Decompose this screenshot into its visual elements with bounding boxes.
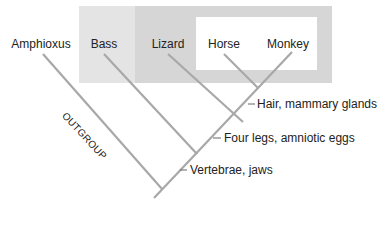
taxon-bass: Bass xyxy=(91,37,118,51)
taxon-lizard: Lizard xyxy=(152,37,185,51)
trait-four-legs-amniotic-eggs: Four legs, amniotic eggs xyxy=(224,131,355,145)
taxon-horse: Horse xyxy=(208,37,240,51)
taxon-monkey: Monkey xyxy=(267,37,309,51)
trait-vertebrae-jaws: Vertebrae, jaws xyxy=(190,163,273,177)
lizard-branch xyxy=(168,54,243,122)
taxon-amphioxus: Amphioxus xyxy=(11,37,70,51)
trait-hair-mammary-glands: Hair, mammary glands xyxy=(257,97,377,111)
amphioxus-branch xyxy=(43,54,162,189)
horse-branch xyxy=(224,54,258,88)
